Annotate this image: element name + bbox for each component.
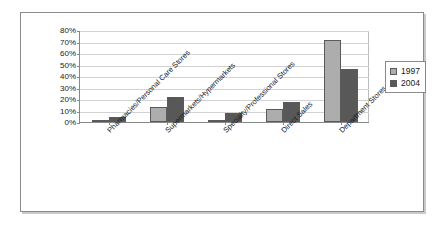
y-axis-tick-label: 0% <box>64 119 76 127</box>
y-axis-tick-mark <box>77 89 80 90</box>
legend-item-2004: 2004 <box>390 77 420 89</box>
bar-1997-1 <box>150 107 167 122</box>
legend-item-1997: 1997 <box>390 65 420 77</box>
legend-item-label: 1997 <box>401 67 420 76</box>
y-axis-tick-label: 10% <box>60 108 76 116</box>
y-axis-tick-label: 30% <box>60 85 76 93</box>
y-axis-tick-mark <box>77 43 80 44</box>
chart-frame: 0%10%20%30%40%50%60%70%80% Pharmacies/Pe… <box>20 12 424 212</box>
y-axis-tick-mark <box>77 123 80 124</box>
y-axis-tick-label: 80% <box>60 27 76 35</box>
y-axis-tick-mark <box>77 54 80 55</box>
chart-legend: 19972004 <box>385 61 426 93</box>
bar-1997-0 <box>92 120 109 122</box>
bar-1997-4 <box>324 40 341 122</box>
y-axis-tick-label: 40% <box>60 73 76 81</box>
bar-1997-2 <box>208 120 225 122</box>
y-axis-tick-label: 20% <box>60 96 76 104</box>
light-gray-swatch-icon <box>390 68 397 75</box>
gridline <box>80 31 369 32</box>
dark-gray-swatch-icon <box>390 80 397 87</box>
y-axis-tick-label: 60% <box>60 50 76 58</box>
y-axis-tick-mark <box>77 112 80 113</box>
y-axis-tick-mark <box>77 66 80 67</box>
bar-1997-3 <box>266 109 283 122</box>
y-axis-tick-label: 70% <box>60 39 76 47</box>
legend-item-label: 2004 <box>401 79 420 88</box>
y-axis-tick-mark <box>77 31 80 32</box>
y-axis-tick-mark <box>77 77 80 78</box>
y-axis-tick-label: 50% <box>60 62 76 70</box>
y-axis-tick-mark <box>77 100 80 101</box>
